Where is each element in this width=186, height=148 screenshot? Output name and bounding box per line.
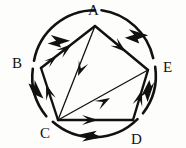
- vertex-label-a: A: [88, 3, 99, 18]
- vertex-label-d: D: [131, 132, 142, 147]
- vertex-label-e: E: [163, 60, 172, 75]
- arrow-chord-cb: [41, 82, 55, 100]
- vertex-label-b: B: [12, 56, 22, 71]
- pentagon-circle-diagram: [0, 0, 186, 148]
- figure-canvas: A B C D E: [0, 0, 186, 148]
- arc-E-A: [102, 10, 154, 58]
- vertex-label-c: C: [40, 126, 50, 141]
- chord-arrowheads: [41, 38, 147, 125]
- arrow-chord-ce: [94, 94, 112, 110]
